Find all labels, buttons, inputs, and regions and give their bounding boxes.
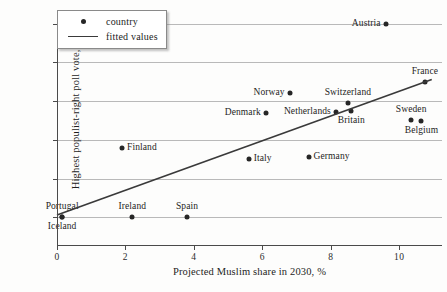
legend-item-country: country: [64, 14, 158, 29]
x-tick-label: 8: [328, 252, 333, 262]
x-tick-mark: [262, 246, 263, 250]
x-tick-mark: [194, 246, 195, 250]
chart-legend: country fitted values: [57, 10, 167, 49]
x-tick-label: 10: [394, 252, 404, 262]
x-tick-mark: [399, 246, 400, 250]
legend-label-fitted-values: fitted values: [102, 31, 158, 42]
x-tick-mark: [57, 246, 58, 250]
x-tick-label: 6: [260, 252, 265, 262]
x-tick-mark: [125, 246, 126, 250]
legend-item-fitted-values: fitted values: [64, 29, 158, 44]
line-marker-icon: [64, 36, 102, 38]
x-axis-line: [57, 245, 442, 246]
x-tick-label: 4: [191, 252, 196, 262]
legend-label-country: country: [102, 16, 138, 27]
dot-marker-icon: [64, 19, 102, 24]
x-tick-label: 0: [54, 252, 59, 262]
x-axis-title: Projected Muslim share in 2030, %: [57, 266, 442, 277]
x-tick-mark: [331, 246, 332, 250]
scatter-chart: 01020304050 IcelandPortugalIrelandSpainF…: [0, 0, 447, 292]
x-tick-label: 2: [123, 252, 128, 262]
